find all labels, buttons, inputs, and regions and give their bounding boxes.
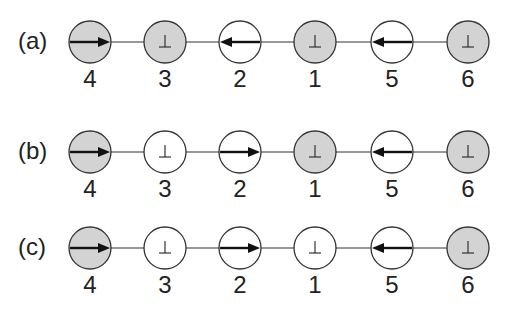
diagram-canvas — [0, 0, 509, 313]
node-2 — [219, 131, 261, 173]
node-number-label: 1 — [295, 175, 335, 203]
node-5 — [371, 227, 413, 269]
node-number-label: 3 — [145, 271, 185, 299]
node-number-label: 5 — [372, 175, 412, 203]
node-1 — [294, 227, 336, 269]
node-6 — [447, 21, 489, 63]
node-number-label: 5 — [372, 65, 412, 93]
node-1 — [294, 21, 336, 63]
node-number-label: 4 — [70, 175, 110, 203]
node-number-label: 1 — [295, 65, 335, 93]
node-number-label: 5 — [372, 271, 412, 299]
node-number-label: 6 — [448, 175, 488, 203]
row-label: (a) — [18, 27, 47, 55]
node-number-label: 4 — [70, 271, 110, 299]
node-5 — [371, 21, 413, 63]
node-number-label: 1 — [295, 271, 335, 299]
node-number-label: 3 — [145, 175, 185, 203]
node-6 — [447, 131, 489, 173]
node-5 — [371, 131, 413, 173]
node-number-label: 2 — [220, 65, 260, 93]
node-4 — [69, 131, 111, 173]
node-6 — [447, 227, 489, 269]
node-2 — [219, 21, 261, 63]
node-1 — [294, 131, 336, 173]
row-label: (c) — [18, 233, 46, 261]
row-label: (b) — [18, 137, 47, 165]
chain-row-b — [69, 131, 489, 173]
node-number-label: 2 — [220, 175, 260, 203]
node-3 — [144, 131, 186, 173]
node-number-label: 3 — [145, 65, 185, 93]
node-number-label: 6 — [448, 65, 488, 93]
node-3 — [144, 227, 186, 269]
chain-row-c — [69, 227, 489, 269]
node-number-label: 4 — [70, 65, 110, 93]
node-3 — [144, 21, 186, 63]
node-4 — [69, 21, 111, 63]
node-number-label: 2 — [220, 271, 260, 299]
node-4 — [69, 227, 111, 269]
node-number-label: 6 — [448, 271, 488, 299]
node-2 — [219, 227, 261, 269]
chain-row-a — [69, 21, 489, 63]
